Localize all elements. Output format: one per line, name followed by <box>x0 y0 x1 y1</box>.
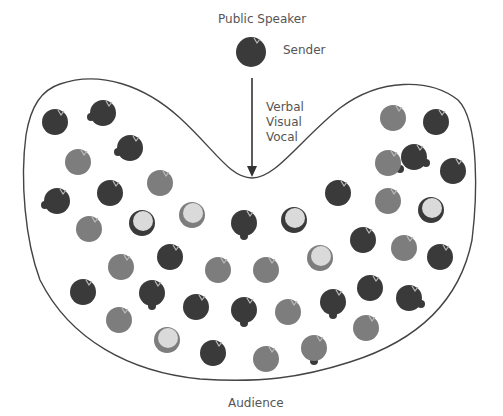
audience-member-icon <box>391 235 417 261</box>
audience-member-icon <box>129 210 155 236</box>
audience-member-icon <box>353 315 379 341</box>
audience-member-icon <box>307 245 333 271</box>
audience-diagram <box>0 0 503 416</box>
audience-member-icon <box>106 307 132 333</box>
sender-icon <box>236 37 266 67</box>
audience-member-icon <box>418 197 444 223</box>
audience-member-icon <box>154 327 180 353</box>
audience-member-icon <box>179 202 205 228</box>
audience-member-icon <box>114 135 143 161</box>
audience-member-icon <box>423 109 449 135</box>
audience-member-icon <box>205 257 231 283</box>
audience-member-icon <box>375 150 404 176</box>
arrow <box>247 78 257 177</box>
audience-member-icon <box>396 285 425 311</box>
audience-label: Audience <box>228 396 284 410</box>
audience-member-icon <box>281 207 307 233</box>
audience-member-icon <box>320 289 346 319</box>
audience-member-icon <box>357 275 383 301</box>
audience-member-icon <box>147 170 173 196</box>
audience-member-icon <box>427 244 453 270</box>
audience-member-icon <box>65 149 91 175</box>
channel-vocal: Vocal <box>266 130 298 144</box>
audience-member-icon <box>301 335 327 365</box>
audience-member-icon <box>275 299 301 325</box>
audience-member-icon <box>139 280 165 310</box>
audience-member-icon <box>325 180 351 206</box>
audience-member-icon <box>70 279 96 305</box>
audience-member-icon <box>253 346 279 372</box>
audience-member-icon <box>97 180 123 206</box>
audience-member-icon <box>375 188 401 214</box>
audience-member-icon <box>231 210 257 240</box>
audience-member-icon <box>350 227 376 253</box>
public-speaker-label: Public Speaker <box>218 12 306 26</box>
audience-member-icon <box>200 340 226 366</box>
audience-member-icon <box>87 100 116 126</box>
audience-member-icon <box>42 109 68 135</box>
audience-member-icon <box>401 144 430 170</box>
sender-label: Sender <box>283 43 326 57</box>
audience-member-icon <box>76 216 102 242</box>
audience-member-icon <box>231 297 257 327</box>
audience-member-icon <box>157 244 183 270</box>
audience-member-icon <box>108 254 134 280</box>
audience-member-icon <box>440 158 466 184</box>
audience-member-icon <box>253 257 279 283</box>
channel-verbal: Verbal <box>266 100 304 114</box>
audience-member-icon <box>183 294 209 320</box>
audience-member-icon <box>41 188 70 214</box>
channel-visual: Visual <box>266 115 302 129</box>
audience-member-icon <box>380 105 406 131</box>
